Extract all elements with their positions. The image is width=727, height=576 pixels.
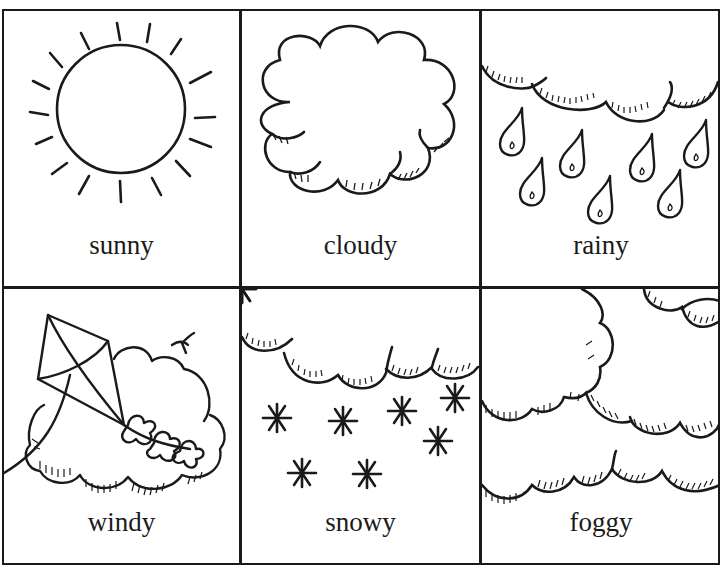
card-snowy: snowy xyxy=(242,289,479,565)
card-label-foggy: foggy xyxy=(482,507,720,538)
card-label-sunny: sunny xyxy=(4,230,239,261)
card-rainy: rainy xyxy=(482,12,720,286)
card-foggy: foggy xyxy=(482,289,720,565)
card-label-cloudy: cloudy xyxy=(242,230,479,261)
card-label-rainy: rainy xyxy=(482,230,720,261)
card-label-snowy: snowy xyxy=(242,507,479,538)
card-cloudy: cloudy xyxy=(242,12,479,286)
card-windy: windy xyxy=(4,289,239,565)
card-label-windy: windy xyxy=(4,507,239,538)
card-sunny: sunny xyxy=(4,12,239,286)
